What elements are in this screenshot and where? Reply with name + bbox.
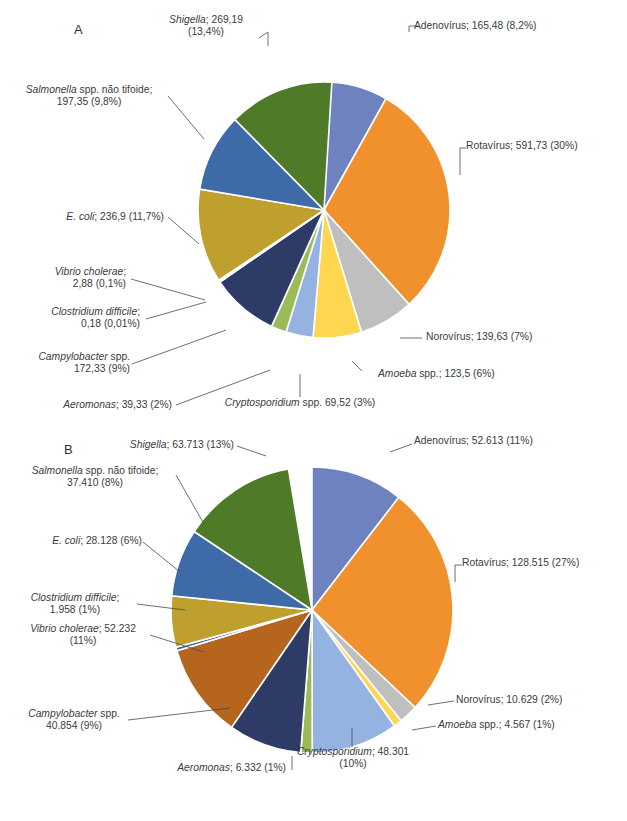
label-clostridium-b: Clostridium difficile; 1.958 (1%) (10, 592, 140, 617)
label-salmonella-a: Salmonella spp. não tifoide; 197,35 (9,8… (14, 84, 164, 109)
pie-chart-panel-a: A Adenovírus; 165,48 (8,2%) (0, 0, 627, 420)
leader-campylobacter-a (132, 330, 226, 364)
label-campylobacter-b-line1: Campylobacter spp. (18, 708, 130, 720)
label-salmonella-a-line1: Salmonella spp. não tifoide; (14, 84, 164, 96)
label-aeromonas-a: Aeromonas; 39,33 (2%) (20, 399, 172, 411)
leader-shigella-a (259, 32, 268, 46)
leader-ecoli-a (168, 217, 199, 244)
label-adenovirus-b: Adenovírus; 52.613 (11%) (414, 435, 533, 447)
label-salmonella-a-line2: 197,35 (9,8%) (14, 96, 164, 108)
leader-rotavirus-b (455, 565, 462, 582)
label-rotavirus-b: Rotavírus; 128.515 (27%) (462, 557, 579, 569)
label-clostridium-a: Clostridium difficile; 0,18 (0,01%) (16, 306, 140, 331)
label-shigella-b: Shigella; 63.713 (13%) (80, 439, 234, 451)
label-shigella-a: Shigella; 269,19 (13,4%) (156, 14, 256, 39)
label-vibrio-b-line1: Vibrio cholerae; 52.232 (14, 623, 152, 635)
leader-salmonella-b (176, 475, 204, 524)
label-vibrio-a-line1: Vibrio cholerae; (20, 266, 126, 278)
leader-amoeba-b (412, 726, 436, 730)
label-vibrio-a-line2: 2,88 (0,1%) (20, 278, 126, 290)
label-cryptosporidium-b-line1: Cryptosporidium; 48.301 (282, 746, 424, 758)
leader-shigella-b (237, 446, 266, 456)
label-ecoli-b: E. coli; 28.128 (6%) (12, 535, 142, 547)
leader-clostridium-a (146, 302, 206, 319)
label-vibrio-a: Vibrio cholerae; 2,88 (0,1%) (20, 266, 126, 291)
leader-ecoli-b (143, 542, 180, 572)
label-campylobacter-a-line1: Campylobacter spp. (16, 351, 130, 363)
label-clostridium-b-line2: 1.958 (1%) (10, 604, 140, 616)
leader-adenovirus-b (390, 444, 412, 452)
leader-salmonella-a (168, 96, 204, 139)
leader-vibrio-a (131, 279, 205, 300)
label-campylobacter-b-line2: 40.854 (9%) (18, 720, 130, 732)
label-cryptosporidium-b-line2: (10%) (282, 758, 424, 770)
label-cryptosporidium-a: Cryptosporidium spp. 69,52 (3%) (215, 397, 385, 409)
label-salmonella-b: Salmonella spp. não tifoide; 37.410 (8%) (18, 465, 172, 490)
label-salmonella-b-line1: Salmonella spp. não tifoide; (18, 465, 172, 477)
label-adenovirus-a: Adenovírus; 165,48 (8,2%) (414, 20, 537, 32)
label-aeromonas-b: Aeromonas; 6.332 (1%) (130, 762, 286, 774)
label-campylobacter-a: Campylobacter spp. 172,33 (9%) (16, 351, 130, 376)
label-cryptosporidium-b: Cryptosporidium; 48.301 (10%) (282, 746, 424, 771)
label-campylobacter-a-line2: 172,33 (9%) (16, 363, 130, 375)
label-shigella-a-line1: Shigella; 269,19 (156, 14, 256, 26)
label-shigella-a-line2: (13,4%) (156, 26, 256, 38)
label-salmonella-b-line2: 37.410 (8%) (18, 477, 172, 489)
label-rotavirus-a: Rotavírus; 591,73 (30%) (466, 140, 578, 152)
pie-a-slice-group (198, 82, 450, 338)
pie-chart-panel-b: B Adenovírus; 52.613 (11%) (0, 420, 627, 795)
label-norovirus-b: Norovírus; 10.629 (2%) (456, 694, 562, 706)
label-ecoli-a: E. coli; 236,9 (11,7%) (18, 211, 164, 223)
label-clostridium-a-line2: 0,18 (0,01%) (16, 318, 140, 330)
label-norovirus-a: Norovírus; 139,63 (7%) (426, 331, 532, 343)
leader-amoeba-a (352, 361, 362, 371)
label-campylobacter-b: Campylobacter spp. 40.854 (9%) (18, 708, 130, 733)
label-amoeba-b: Amoeba spp.; 4.567 (1%) (438, 719, 555, 731)
leader-norovirus-b (428, 701, 454, 705)
figure-two-pie-charts: A Adenovírus; 165,48 (8,2%) (0, 0, 627, 821)
label-vibrio-b: Vibrio cholerae; 52.232 (11%) (14, 623, 152, 648)
label-clostridium-a-line1: Clostridium difficile; (16, 306, 140, 318)
label-clostridium-b-line1: Clostridium difficile; (10, 592, 140, 604)
label-amoeba-a: Amoeba spp.; 123,5 (6%) (378, 368, 495, 380)
label-vibrio-b-line2: (11%) (14, 635, 152, 647)
